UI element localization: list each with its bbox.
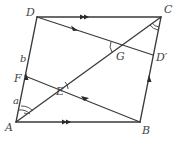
label-C: C [164,3,173,16]
geometry-diagram: D C A B F E G D′ a b [0,0,180,142]
arrow-DDprime [71,26,78,32]
label-Dprime: D′ [155,51,168,64]
angle-arc-G [110,42,112,52]
segment-FB [25,76,140,122]
double-arrow-DC [80,15,89,20]
arrow-BC [147,75,152,82]
side-AD [16,17,37,122]
angle-arc-C-1 [152,23,159,27]
label-F: F [13,72,22,85]
diagonal-AC [16,17,161,122]
angle-arc-C-2 [150,25,158,30]
double-arrow-AB [62,120,71,125]
label-b: b [20,53,26,64]
angle-arc-A-outer [24,113,27,114]
label-A: A [4,121,13,134]
label-a: a [13,95,19,106]
label-E: E [55,85,64,98]
label-G: G [116,50,125,63]
label-B: B [141,124,150,137]
side-BC [140,17,161,122]
label-D: D [25,6,35,19]
